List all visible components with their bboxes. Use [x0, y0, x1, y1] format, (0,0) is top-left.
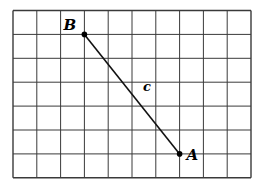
label-c: c — [143, 79, 151, 94]
label-a: A — [185, 146, 199, 164]
point-b — [82, 32, 88, 38]
label-b: B — [62, 16, 76, 34]
grid-diagram: B A c — [0, 0, 264, 187]
point-a — [177, 151, 183, 157]
